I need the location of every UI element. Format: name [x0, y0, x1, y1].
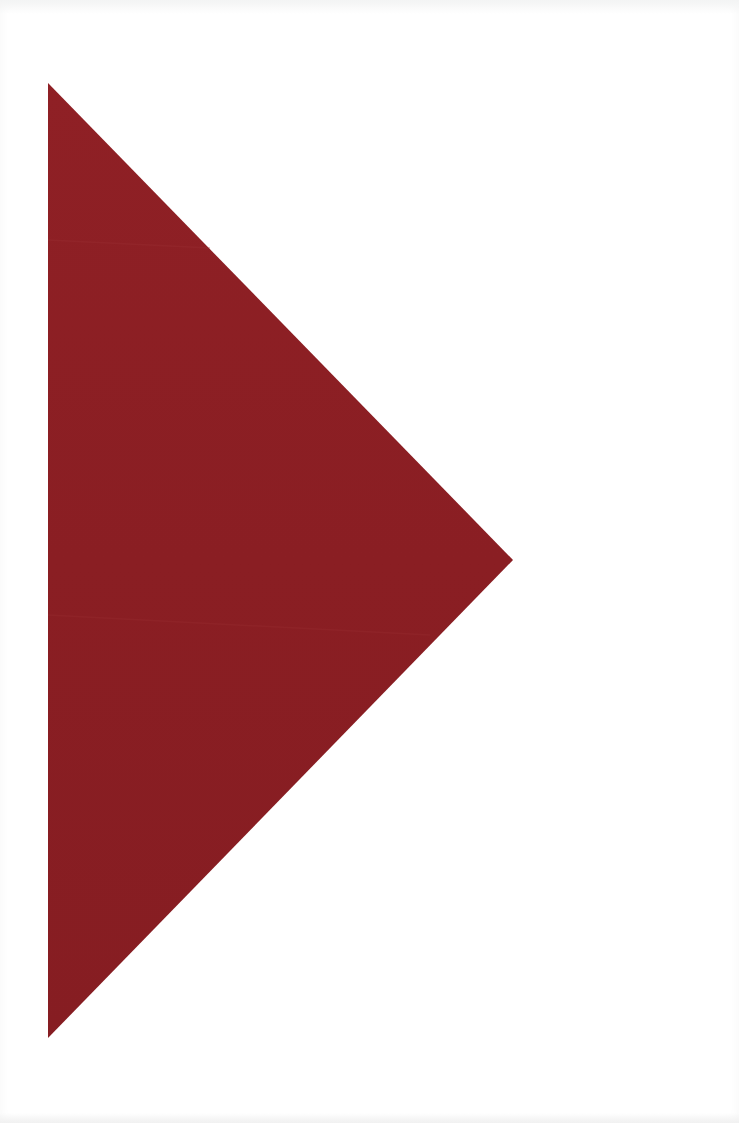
page-bottom-edge-shadow	[0, 1113, 739, 1123]
right-pointing-triangle	[0, 0, 739, 1123]
scanned-page	[0, 0, 739, 1123]
triangle-shape	[48, 83, 513, 1038]
